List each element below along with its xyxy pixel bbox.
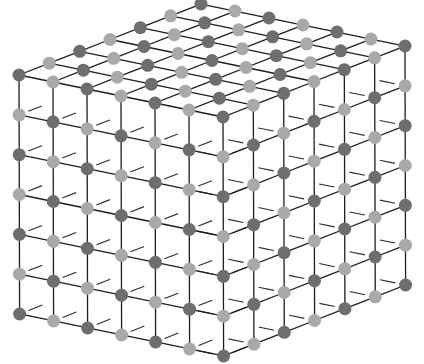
hidden-bond	[62, 232, 76, 237]
light-atom	[232, 23, 245, 36]
light-atom	[308, 155, 321, 168]
hidden-bond	[198, 260, 212, 265]
dark-atom	[198, 16, 211, 29]
hidden-bond	[380, 200, 395, 203]
dark-atom	[278, 246, 291, 259]
hidden-bond	[198, 181, 212, 186]
light-atom	[164, 9, 177, 22]
dark-atom	[368, 91, 381, 104]
light-atom	[149, 136, 162, 149]
hidden-bond	[164, 253, 178, 258]
dark-atom	[262, 12, 275, 25]
dark-atom	[13, 148, 26, 161]
dark-atom	[149, 335, 162, 348]
hidden-bond	[350, 212, 365, 215]
light-atom	[47, 314, 60, 327]
hidden-bond	[228, 140, 243, 143]
hidden-bond	[349, 92, 364, 95]
hidden-bond	[63, 272, 77, 277]
dark-atom	[217, 270, 230, 283]
dark-atom	[149, 97, 162, 110]
light-atom	[338, 183, 351, 196]
light-atom	[115, 328, 128, 341]
light-atom	[369, 211, 382, 224]
dark-atom	[399, 199, 412, 212]
dark-atom	[217, 190, 230, 203]
hidden-bond	[228, 219, 243, 222]
hidden-bond	[380, 280, 395, 283]
light-atom	[278, 286, 291, 299]
dark-atom	[369, 251, 382, 264]
hidden-bond	[319, 303, 334, 306]
hidden-bond	[62, 153, 76, 158]
light-atom	[149, 216, 162, 229]
hidden-bond	[29, 265, 43, 270]
light-atom	[13, 108, 26, 121]
hidden-bond	[319, 104, 334, 107]
dark-atom	[183, 223, 196, 236]
light-atom	[217, 150, 230, 163]
dark-atom	[338, 63, 351, 76]
dark-atom	[273, 68, 286, 81]
hidden-bond	[350, 292, 365, 295]
dark-atom	[330, 26, 343, 39]
light-atom	[217, 230, 230, 243]
hidden-bond	[62, 113, 76, 118]
hidden-bond	[165, 333, 179, 338]
dark-atom	[368, 171, 381, 184]
hidden-bond	[228, 299, 243, 302]
light-atom	[338, 262, 351, 275]
hidden-bond	[130, 207, 144, 212]
light-atom	[368, 51, 381, 64]
light-atom	[239, 61, 252, 74]
dark-atom	[81, 162, 94, 175]
dark-atom	[137, 40, 150, 53]
hidden-bond	[350, 252, 365, 255]
dark-atom	[149, 176, 162, 189]
hidden-bond	[130, 167, 144, 172]
dark-atom	[13, 307, 26, 320]
light-atom	[296, 19, 309, 32]
dark-atom	[202, 35, 215, 48]
hidden-bond	[165, 293, 179, 298]
light-atom	[338, 103, 351, 116]
dark-atom	[334, 44, 347, 57]
dark-atom	[213, 92, 226, 105]
hidden-bond	[380, 120, 395, 123]
hidden-bond	[131, 286, 145, 291]
dark-atom	[81, 83, 94, 96]
light-atom	[81, 202, 94, 215]
dark-atom	[81, 242, 94, 255]
light-atom	[115, 90, 128, 103]
hidden-bond	[289, 116, 304, 119]
light-atom	[247, 338, 260, 351]
light-atom	[81, 282, 94, 295]
dark-atom	[338, 223, 351, 236]
dark-atom	[266, 30, 279, 43]
hidden-bond	[259, 247, 274, 250]
hidden-bond	[96, 160, 110, 165]
light-atom	[247, 258, 260, 271]
light-atom	[13, 268, 26, 281]
light-atom	[277, 206, 290, 219]
hidden-bond	[259, 287, 274, 290]
hidden-bond	[130, 246, 144, 251]
hidden-bond	[63, 312, 77, 317]
light-atom	[115, 249, 128, 262]
dark-atom	[277, 87, 290, 100]
light-atom	[183, 183, 196, 196]
dark-atom	[145, 78, 158, 91]
hidden-bond	[96, 200, 110, 205]
light-atom	[300, 37, 313, 50]
hidden-bond	[164, 214, 178, 219]
light-atom	[308, 234, 321, 247]
light-atom	[168, 28, 181, 41]
hidden-bond	[289, 236, 304, 239]
dark-atom	[13, 69, 26, 82]
dark-atom	[115, 209, 128, 222]
dark-atom	[270, 49, 283, 62]
hidden-bond	[228, 259, 243, 262]
light-atom	[247, 99, 260, 112]
light-atom	[103, 33, 116, 46]
hidden-bond	[319, 264, 334, 267]
